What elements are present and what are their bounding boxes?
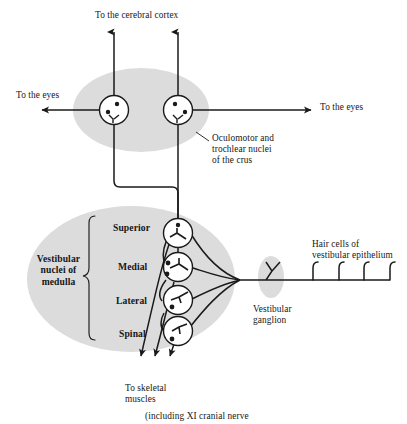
figure-caption: (including XI cranial nerve — [145, 411, 249, 422]
label-to-cerebral-cortex: To the cerebral cortex — [95, 10, 178, 21]
hair-cell-3 — [364, 262, 369, 280]
neuron-lateral — [164, 286, 193, 315]
label-nucleus-medial: Medial — [118, 261, 147, 272]
neuron-superior — [164, 219, 193, 248]
hair-cell-4 — [390, 262, 395, 280]
label-vestibular-nuclei-of-medulla: Vestibular nuclei of medulla — [27, 253, 90, 287]
hair-cell-1 — [313, 262, 318, 280]
label-vestibular-ganglion: Vestibular ganglion — [253, 304, 292, 326]
crus-neuron-right — [164, 96, 193, 125]
hair-cell-2 — [339, 262, 344, 280]
label-to-the-eyes-left: To the eyes — [16, 90, 59, 101]
label-nucleus-superior: Superior — [113, 222, 150, 233]
label-hair-cells-of-vestibular-epithelium: Hair cells of vestibular epithelium — [312, 239, 393, 261]
vestibular-pathway-diagram: To the cerebral cortex To the eyes To th… — [0, 0, 407, 424]
label-nucleus-spinal: Spinal — [119, 328, 146, 339]
neuron-spinal — [164, 317, 193, 346]
leader-line-oculomotor — [196, 132, 209, 141]
label-oculomotor-trochlear-nuclei: Oculomotor and trochlear nuclei of the c… — [212, 133, 274, 166]
neuron-medial — [164, 253, 193, 282]
label-nucleus-lateral: Lateral — [116, 295, 147, 306]
crus-neuron-left — [100, 96, 129, 125]
hair-cell-group — [313, 262, 395, 280]
label-to-skeletal-muscles: To skeletal muscles — [125, 383, 167, 405]
label-to-the-eyes-right: To the eyes — [320, 102, 363, 113]
diagram-canvas — [0, 0, 407, 424]
